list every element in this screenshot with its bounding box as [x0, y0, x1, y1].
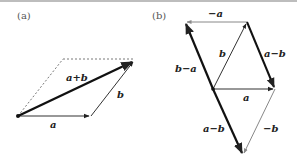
label-neg-b: −b — [263, 123, 278, 134]
dashed-edge-left — [18, 59, 63, 116]
vector-b — [91, 62, 133, 116]
label-a: a — [50, 119, 56, 130]
origin-point — [16, 114, 20, 118]
label-a: a — [243, 92, 249, 103]
vector-b — [213, 24, 246, 89]
label-b-minus-a: b−a — [175, 63, 197, 74]
panel-a-label: (a) — [17, 10, 31, 21]
label-a-minus-b-bottom: a−b — [203, 123, 225, 134]
panel-b-label: (b) — [152, 10, 166, 21]
panel-b: (b) −a b a−b b−a a a−b −b — [152, 8, 286, 153]
label-a-minus-b-top: a−b — [264, 48, 286, 59]
label-a-plus-b: a+b — [66, 72, 88, 83]
vector-a-minus-b-bottom — [213, 89, 242, 153]
origin-point — [211, 87, 215, 91]
label-b: b — [219, 48, 226, 59]
vector-diagram: (a) a b a+b (b) −a b a−b b−a a a−b −b — [0, 0, 297, 167]
vector-a-plus-b — [18, 62, 132, 116]
panel-a: (a) a b a+b — [16, 10, 134, 130]
label-neg-a: −a — [208, 8, 223, 19]
vector-b-minus-a — [186, 24, 213, 89]
label-b: b — [117, 89, 124, 100]
